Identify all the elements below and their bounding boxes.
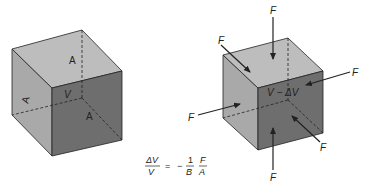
bulk-modulus-diagram: A A A V V − ΔV F F F F F F ΔV V = − 1 B: [0, 0, 372, 189]
right-cube-volume-label: V − ΔV: [267, 87, 300, 98]
left-cube-area-label-bottom: A: [86, 111, 93, 122]
force-label-bottom: F: [270, 172, 277, 183]
force-label-back-left: F: [218, 35, 225, 46]
left-cube: A A A V: [12, 30, 122, 156]
equation-minus: −: [177, 161, 182, 171]
equation-lhs-denominator: V: [148, 167, 155, 177]
force-label-top: F: [270, 5, 277, 16]
equation-rhs-denominator: A: [198, 167, 205, 177]
equation-coef-numerator: 1: [188, 155, 193, 165]
equation-lhs-numerator: ΔV: [145, 155, 159, 165]
equation-rhs-numerator: F: [200, 155, 206, 165]
force-label-front-right: F: [320, 142, 327, 153]
force-label-left: F: [188, 112, 195, 123]
force-label-right: F: [352, 67, 359, 78]
bulk-modulus-equation: ΔV V = − 1 B F A: [145, 155, 207, 177]
left-cube-area-label-top: A: [69, 55, 76, 66]
equation-coef-denominator: B: [186, 167, 192, 177]
equation-equals: =: [165, 161, 170, 171]
right-cube: V − ΔV F F F F F F: [188, 5, 359, 183]
